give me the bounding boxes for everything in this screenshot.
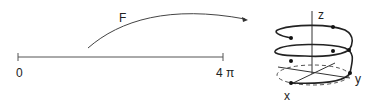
x-axis-label: x xyxy=(284,90,290,102)
helix-points xyxy=(289,25,352,85)
map-label: F xyxy=(119,12,126,24)
map-arrow xyxy=(88,14,248,48)
y-axis-label: y xyxy=(355,73,361,85)
z-axis-label: z xyxy=(318,9,324,21)
interval-line xyxy=(18,53,223,61)
interval-end-label: 4 π xyxy=(216,67,234,79)
base-circle xyxy=(277,65,349,85)
axes xyxy=(278,11,350,84)
interval-start-label: 0 xyxy=(16,67,23,79)
helix-curve xyxy=(275,25,352,83)
